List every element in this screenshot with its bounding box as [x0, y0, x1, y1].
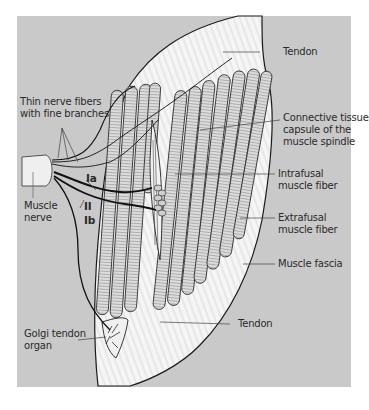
label-intrafusal: Intrafusal muscle fiber [278, 168, 337, 192]
label-fiber-ib: Ib [84, 214, 95, 226]
extrafusal-fibers [96, 68, 273, 318]
label-capsule: Connective tissue capsule of the muscle … [283, 112, 369, 148]
label-golgi-tendon-organ: Golgi tendon organ [24, 328, 86, 352]
label-line: Connective tissue [283, 112, 369, 124]
label-fiber-ii: II [84, 200, 91, 212]
label-line: muscle fiber [278, 224, 337, 236]
label-line: capsule of the [283, 124, 369, 136]
label-tendon-bottom: Tendon [238, 318, 273, 330]
label-muscle-nerve: Muscle nerve [24, 200, 57, 224]
label-line: muscle fiber [278, 180, 337, 192]
label-line: Thin nerve fibers [20, 96, 109, 108]
label-line: nerve [24, 212, 57, 224]
label-tendon-top: Tendon [283, 46, 318, 58]
muscle-nerve-stump [22, 155, 52, 198]
label-muscle-fascia: Muscle fascia [278, 258, 342, 270]
label-line: Intrafusal [278, 168, 337, 180]
label-line: Extrafusal [278, 212, 337, 224]
label-line: Golgi tendon [24, 328, 86, 340]
label-line: organ [24, 340, 86, 352]
label-line: with fine branches [20, 108, 109, 120]
label-extrafusal: Extrafusal muscle fiber [278, 212, 337, 236]
label-thin-nerve-fibers: Thin nerve fibers with fine branches [20, 96, 109, 120]
label-fiber-ia: Ia [86, 172, 97, 184]
label-line: Muscle [24, 200, 57, 212]
label-line: muscle spindle [283, 136, 369, 148]
